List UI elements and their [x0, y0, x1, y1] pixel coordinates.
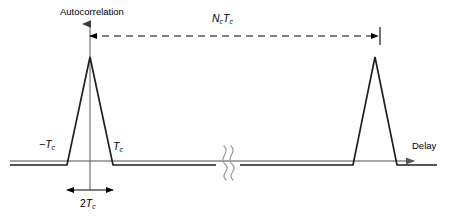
axis-break-icon	[223, 146, 234, 180]
x-axis-label: Delay	[412, 141, 436, 151]
positive-chip-label: Tc	[113, 141, 123, 153]
autocorrelation-trace	[10, 57, 437, 165]
code-period-t-sub: c	[230, 18, 234, 25]
positive-chip-sub: c	[119, 146, 123, 153]
code-period-annotation	[90, 27, 380, 45]
figure-canvas	[0, 0, 455, 222]
code-period-label: NcTc	[212, 13, 233, 25]
trace-segment-right	[240, 57, 437, 165]
negative-chip-sub: c	[52, 144, 56, 151]
chip-width-sub: c	[92, 203, 96, 210]
autocorrelation-figure: Autocorrelation Delay NcTc −Tc Tc 2Tc	[0, 0, 455, 222]
negative-chip-label: −Tc	[39, 139, 55, 151]
chip-width-label: 2Tc	[80, 198, 96, 210]
y-axis-label: Autocorrelation	[60, 7, 124, 17]
code-period-n: N	[212, 12, 220, 24]
